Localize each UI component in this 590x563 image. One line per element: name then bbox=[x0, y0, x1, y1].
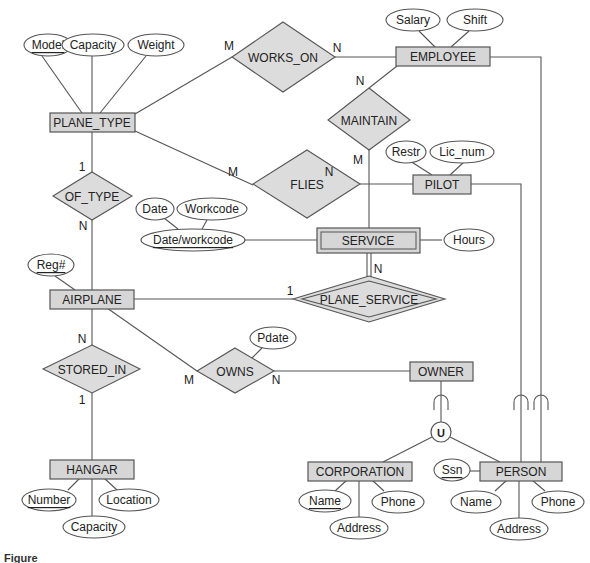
attr-corp-phone-label: Phone bbox=[381, 495, 416, 509]
attr-hangar-capacity[interactable]: Capacity bbox=[63, 516, 125, 538]
card-plane-service-service: N bbox=[374, 262, 383, 276]
card-maintain-service: M bbox=[353, 153, 363, 167]
entity-service-label: SERVICE bbox=[342, 234, 394, 248]
entity-plane-type[interactable]: PLANE_TYPE bbox=[50, 113, 135, 132]
union-circle[interactable]: U bbox=[431, 422, 451, 442]
entity-corporation-label: CORPORATION bbox=[316, 465, 404, 479]
attr-hours[interactable]: Hours bbox=[444, 229, 494, 251]
card-stored-in-airplane: N bbox=[78, 332, 87, 346]
rel-works-on[interactable]: WORKS_ON bbox=[232, 22, 335, 92]
attr-lic-num[interactable]: Lic_num bbox=[430, 141, 494, 163]
rel-plane-service[interactable]: PLANE_SERVICE bbox=[293, 276, 445, 322]
attr-date[interactable]: Date bbox=[136, 198, 174, 220]
attr-weight[interactable]: Weight bbox=[128, 34, 184, 56]
attr-number-label: Number bbox=[28, 493, 71, 507]
attr-lic-num-label: Lic_num bbox=[439, 145, 484, 159]
rel-flies[interactable]: FLIES bbox=[253, 150, 360, 218]
attr-reg-label: Reg# bbox=[37, 258, 66, 272]
attr-ssn[interactable]: Ssn bbox=[434, 459, 470, 481]
connector-lines bbox=[42, 31, 548, 518]
rel-plane-service-label: PLANE_SERVICE bbox=[320, 293, 419, 307]
attr-weight-label: Weight bbox=[137, 38, 175, 52]
union-symbol: U bbox=[437, 427, 445, 439]
entity-airplane-label: AIRPLANE bbox=[62, 293, 121, 307]
attr-location[interactable]: Location bbox=[99, 489, 159, 511]
entity-service[interactable]: SERVICE bbox=[317, 228, 420, 253]
attr-corp-phone[interactable]: Phone bbox=[372, 491, 424, 513]
entity-hangar-label: HANGAR bbox=[66, 463, 118, 477]
rel-flies-label: FLIES bbox=[290, 178, 323, 192]
attr-corp-address-label: Address bbox=[337, 521, 381, 535]
entity-corporation[interactable]: CORPORATION bbox=[308, 462, 412, 481]
entity-pilot[interactable]: PILOT bbox=[413, 175, 471, 194]
entity-plane-type-label: PLANE_TYPE bbox=[53, 116, 130, 130]
attr-workcode[interactable]: Workcode bbox=[177, 198, 247, 220]
attr-date-workcode[interactable]: Date/workcode bbox=[141, 229, 245, 251]
card-owns-owner: N bbox=[272, 373, 281, 387]
attr-hours-label: Hours bbox=[453, 233, 485, 247]
attr-pdate[interactable]: Pdate bbox=[250, 327, 296, 349]
attr-person-address[interactable]: Address bbox=[490, 518, 548, 540]
card-stored-in-hangar: 1 bbox=[79, 393, 86, 407]
attr-person-name[interactable]: Name bbox=[451, 491, 501, 513]
card-works-on-employee: N bbox=[333, 41, 342, 55]
entity-person-label: PERSON bbox=[496, 465, 547, 479]
attr-restr[interactable]: Restr bbox=[386, 141, 426, 163]
entity-employee[interactable]: EMPLOYEE bbox=[396, 47, 490, 66]
attr-person-phone-label: Phone bbox=[541, 495, 576, 509]
attr-model-label: Model bbox=[32, 38, 65, 52]
card-of-type-airplane: N bbox=[79, 219, 88, 233]
card-flies-plane-type: M bbox=[228, 165, 238, 179]
attr-person-phone[interactable]: Phone bbox=[532, 491, 584, 513]
attr-shift[interactable]: Shift bbox=[447, 9, 503, 31]
card-plane-service-airplane: 1 bbox=[287, 284, 294, 298]
attr-plane-capacity[interactable]: Capacity bbox=[62, 34, 124, 56]
entity-employee-label: EMPLOYEE bbox=[410, 50, 476, 64]
attr-person-name-label: Name bbox=[460, 495, 492, 509]
attr-workcode-label: Workcode bbox=[185, 202, 239, 216]
attr-date-workcode-label: Date/workcode bbox=[153, 233, 233, 247]
rel-owns[interactable]: OWNS bbox=[197, 348, 274, 393]
attr-corp-name[interactable]: Name bbox=[299, 490, 351, 512]
attr-corp-address[interactable]: Address bbox=[330, 517, 388, 539]
attr-location-label: Location bbox=[106, 493, 151, 507]
attr-corp-name-label: Name bbox=[309, 494, 341, 508]
attr-salary-label: Salary bbox=[396, 13, 430, 27]
attr-person-address-label: Address bbox=[497, 522, 541, 536]
rel-of-type[interactable]: OF_TYPE bbox=[53, 172, 132, 220]
attr-plane-capacity-label: Capacity bbox=[70, 38, 117, 52]
rel-of-type-label: OF_TYPE bbox=[65, 190, 120, 204]
card-of-type-plane-type: 1 bbox=[79, 160, 86, 174]
card-works-on-plane-type: M bbox=[224, 39, 234, 53]
figure-caption: Figure bbox=[4, 552, 38, 563]
attr-salary[interactable]: Salary bbox=[386, 9, 440, 31]
rel-stored-in[interactable]: STORED_IN bbox=[43, 345, 140, 393]
rel-maintain-label: MAINTAIN bbox=[341, 114, 397, 128]
attr-shift-label: Shift bbox=[463, 13, 488, 27]
attr-reg[interactable]: Reg# bbox=[28, 254, 74, 276]
card-maintain-employee: N bbox=[356, 74, 365, 88]
attr-number[interactable]: Number bbox=[22, 489, 76, 511]
entity-person[interactable]: PERSON bbox=[480, 462, 562, 481]
attr-pdate-label: Pdate bbox=[257, 331, 289, 345]
entity-pilot-label: PILOT bbox=[425, 178, 460, 192]
entity-airplane[interactable]: AIRPLANE bbox=[50, 290, 134, 309]
entity-hangar[interactable]: HANGAR bbox=[50, 460, 134, 479]
entity-owner-label: OWNER bbox=[418, 365, 464, 379]
card-flies-pilot: N bbox=[325, 165, 334, 179]
attr-date-label: Date bbox=[142, 202, 168, 216]
rel-stored-in-label: STORED_IN bbox=[58, 363, 126, 377]
card-owns-airplane: M bbox=[184, 373, 194, 387]
rel-owns-label: OWNS bbox=[216, 365, 253, 379]
rel-works-on-label: WORKS_ON bbox=[248, 51, 318, 65]
attr-restr-label: Restr bbox=[392, 145, 421, 159]
er-diagram: Model Capacity Weight Salary Shift Restr… bbox=[0, 0, 590, 563]
entity-owner[interactable]: OWNER bbox=[410, 362, 473, 381]
attr-ssn-label: Ssn bbox=[442, 463, 463, 477]
attr-hangar-capacity-label: Capacity bbox=[71, 520, 118, 534]
rel-maintain[interactable]: MAINTAIN bbox=[328, 88, 410, 150]
